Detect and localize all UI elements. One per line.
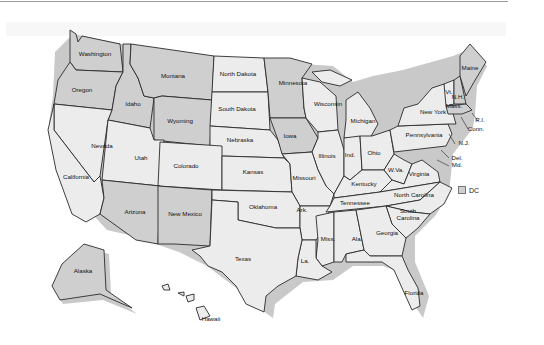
state-label-idaho: Idaho xyxy=(125,100,141,107)
dc-legend: DC xyxy=(458,186,479,194)
state-label-maryland: Md. xyxy=(452,161,463,168)
state-label-missouri: Missouri xyxy=(292,174,315,181)
state-label-indiana: Ind. xyxy=(345,151,356,158)
state-label-minnesota: Minnesota xyxy=(279,79,308,86)
state-label-delaware: Del. xyxy=(451,154,462,161)
state-label-alaska: Alaska xyxy=(74,267,93,274)
state-label-florida: Florida xyxy=(405,289,424,296)
state-label-iowa: Iowa xyxy=(283,132,297,139)
state-label-rhode-island: R.I. xyxy=(475,116,485,123)
state-label-oregon: Oregon xyxy=(72,86,93,93)
state-label-new-hampshire: N.H. xyxy=(452,93,465,100)
state-label-louisiana: La. xyxy=(301,257,310,264)
state-label-montana: Montana xyxy=(161,72,186,79)
state-label-hawaii: Hawaii xyxy=(202,315,221,322)
state-label-arizona: Arizona xyxy=(125,208,147,215)
dc-legend-label: DC xyxy=(469,187,479,194)
state-label-georgia: Georgia xyxy=(376,229,399,236)
state-label-south-dakota: South Dakota xyxy=(218,105,256,112)
state-label-kentucky: Kentucky xyxy=(351,180,377,187)
state-label-new-mexico: New Mexico xyxy=(168,210,202,217)
state-label-connecticut: Conn. xyxy=(468,125,485,132)
state-label-new-jersey: N.J. xyxy=(458,139,469,146)
state-label-mississippi: Miss. xyxy=(321,235,336,242)
state-label-utah: Utah xyxy=(134,154,148,161)
state-label-wisconsin: Wisconsin xyxy=(314,100,343,107)
state-label-arkansas: Ark. xyxy=(296,206,307,213)
state-label-texas: Texas xyxy=(235,255,251,262)
state-label-california: California xyxy=(63,173,90,180)
state-label-kansas: Kansas xyxy=(243,168,264,175)
state-label-nebraska: Nebraska xyxy=(227,136,254,143)
state-label-illinois: Illinois xyxy=(318,152,335,159)
state-label-alabama: Ala. xyxy=(352,235,363,242)
state-label-ohio: Ohio xyxy=(367,149,381,156)
state-label-new-york: New York xyxy=(420,108,447,115)
state-label-virginia: Virginia xyxy=(409,170,430,177)
state-label-colorado: Colorado xyxy=(173,162,199,169)
state-label-michigan: Michigan xyxy=(351,117,376,124)
state-label-washington: Washington xyxy=(79,50,112,57)
state-label-north-dakota: North Dakota xyxy=(220,70,257,77)
state-label-oklahoma: Oklahoma xyxy=(249,203,278,210)
state-label-wyoming: Wyoming xyxy=(167,117,193,124)
state-label-maine: Maine xyxy=(462,64,479,71)
state-label-massachusetts: Mass. xyxy=(446,102,463,109)
state-label-west-virginia: W.Va. xyxy=(388,166,404,173)
state-label-tennessee: Tennessee xyxy=(340,199,370,206)
us-states-map: WashingtonOregonIdahoMontanaWyomingNorth… xyxy=(0,0,544,345)
state-label-pennsylvania: Pennsylvania xyxy=(406,131,443,138)
state-label-nevada: Nevada xyxy=(91,142,113,149)
dc-legend-swatch-icon xyxy=(458,186,466,194)
state-label-north-carolina: North Carolina xyxy=(394,191,434,198)
